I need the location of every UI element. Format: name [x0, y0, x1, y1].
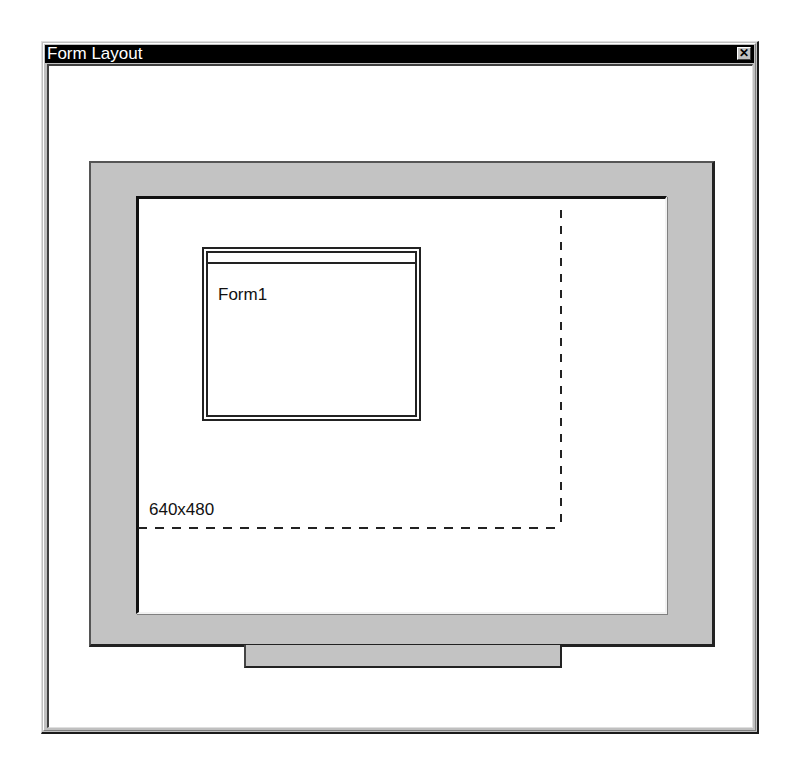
form-thumbnail-titlebar: [208, 253, 415, 264]
form-thumbnail-form1[interactable]: Form1: [202, 247, 421, 421]
close-icon: ✕: [739, 46, 749, 60]
close-button[interactable]: ✕: [737, 47, 751, 60]
form-thumbnail-label: Form1: [218, 285, 267, 305]
title-bar[interactable]: Form Layout ✕: [45, 45, 754, 63]
monitor-stand: [244, 645, 562, 668]
form-thumbnail-frame: [206, 251, 417, 417]
resolution-guide-horizontal: [138, 527, 562, 529]
resolution-guide-vertical: [560, 210, 562, 530]
resolution-guide-label: 640x480: [149, 500, 214, 520]
window-title: Form Layout: [47, 44, 142, 63]
